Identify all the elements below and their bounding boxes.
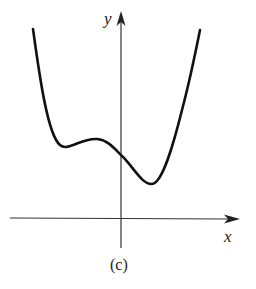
x-axis [10, 218, 228, 219]
graph-figure: y x (c) [0, 0, 256, 289]
function-curve [33, 29, 200, 184]
x-axis-label: x [223, 227, 232, 246]
y-axis-label: y [102, 9, 112, 28]
figure-caption: (c) [110, 256, 128, 274]
